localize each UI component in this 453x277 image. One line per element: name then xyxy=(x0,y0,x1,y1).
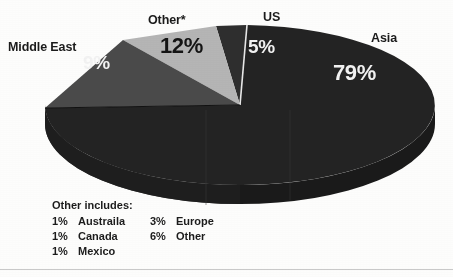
legend-row-2-col1-percent: 1% xyxy=(52,244,74,259)
legend-grid: 1% Austraila 3% Europe 1% Canada 6% Othe… xyxy=(52,214,214,259)
slice-value-asia: 79% xyxy=(333,60,376,86)
slice-label-other: Other* xyxy=(148,13,186,27)
legend-other-breakdown: Other includes: 1% Austraila 3% Europe 1… xyxy=(52,198,214,259)
legend-row-1-col1-percent: 1% xyxy=(52,229,74,244)
slice-label-asia: Asia xyxy=(371,31,397,45)
slice-label-middle-east: Middle East xyxy=(8,40,76,54)
slice-label-us: US xyxy=(263,10,280,24)
slice-value-us: 5% xyxy=(248,36,275,58)
legend-row-1-col1-name: Canada xyxy=(78,229,146,244)
legend-row-2-col2-name xyxy=(176,244,214,259)
page-bottom-rule xyxy=(0,269,453,270)
legend-row-0-col1-percent: 1% xyxy=(52,214,74,229)
legend-row-1-col2-name: Other xyxy=(176,229,214,244)
legend-row-2-col2-percent xyxy=(150,244,172,259)
legend-row-0-col1-name: Austraila xyxy=(78,214,146,229)
legend-row-0-col2-name: Europe xyxy=(176,214,214,229)
legend-row-2-col1-name: Mexico xyxy=(78,244,146,259)
legend-row-0-col2-percent: 3% xyxy=(150,214,172,229)
pie-chart-figure: Middle East Other* US Asia 9% 12% 5% 79%… xyxy=(0,0,453,277)
legend-title: Other includes: xyxy=(52,198,214,213)
slice-value-middle-east: 9% xyxy=(83,52,110,74)
legend-row-1-col2-percent: 6% xyxy=(150,229,172,244)
slice-value-other: 12% xyxy=(160,33,203,59)
